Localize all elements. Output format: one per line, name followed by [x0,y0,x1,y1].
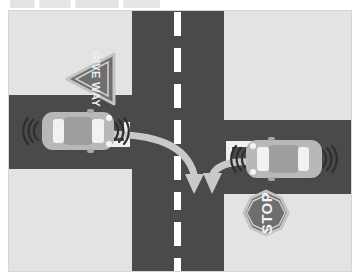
centerline-dashes [174,12,181,272]
car-left-windshield [92,119,104,143]
car-right-rear-window [298,147,309,171]
car-right-mirror-top [268,137,275,141]
car-right-headlight-top [250,143,256,149]
car-right-roof [268,145,299,173]
figure-caption: Top-down view of a crossroads intersecti… [0,0,1,1]
give-way-label: GIVE WAY [90,51,102,107]
car-right-headlight-bottom [250,169,256,175]
heading-fragment [10,0,160,8]
car-right-windshield [257,147,269,171]
car-left-mirror-top [87,109,94,113]
car-left-rear-window [53,119,64,143]
stop-label: STOP [258,192,275,235]
stop-sign: STOP [244,191,288,235]
intersection-diagram: GIVE WAY STOP [8,10,352,272]
car-left-mirror-bottom [87,149,94,153]
car-left-roof [63,117,93,145]
car-right-mirror-bottom [268,177,275,181]
car-left-headlight-top [106,115,112,121]
page-root: GIVE WAY STOP [0,0,361,278]
car-left-headlight-bottom [106,141,112,147]
